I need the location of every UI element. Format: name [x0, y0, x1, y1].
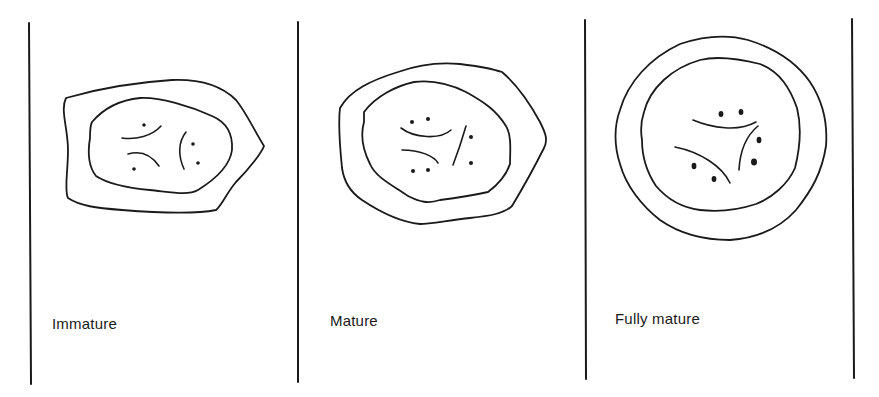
- outer-wall-outline: [616, 37, 827, 240]
- divider-line-3: [585, 20, 586, 379]
- dot: [751, 159, 757, 166]
- strand-1: [401, 128, 451, 137]
- panel-immature-drawing: [64, 80, 264, 213]
- strand-2: [675, 147, 730, 183]
- dot: [132, 167, 136, 171]
- strand-3: [453, 126, 466, 165]
- stage-label-fully-mature: Fully mature: [615, 310, 700, 327]
- dot: [411, 169, 415, 173]
- panel-fully-mature-drawing: [616, 37, 827, 240]
- dot: [739, 109, 744, 115]
- strand-1: [693, 120, 756, 128]
- dot: [191, 142, 195, 146]
- dot: [712, 176, 717, 182]
- diagram-canvas: [0, 0, 879, 397]
- divider-line-1: [29, 23, 31, 384]
- strand-2: [128, 153, 159, 166]
- dot: [692, 163, 697, 169]
- inner-cavity-outline: [362, 81, 510, 202]
- strand-3: [180, 132, 186, 169]
- dot: [410, 120, 414, 124]
- inner-cavity-outline: [641, 58, 800, 211]
- strand-2: [402, 150, 438, 163]
- inner-cavity-outline: [89, 98, 232, 193]
- stage-label-immature: Immature: [52, 315, 117, 332]
- dot: [469, 135, 473, 139]
- stage-label-mature: Mature: [330, 312, 378, 329]
- dot: [426, 168, 430, 172]
- dot: [196, 161, 200, 165]
- divider-line-4: [852, 19, 854, 378]
- dot: [142, 123, 146, 127]
- dot: [469, 161, 473, 165]
- dot: [719, 111, 724, 117]
- dot: [757, 137, 762, 143]
- strand-1: [122, 126, 161, 139]
- panel-mature-drawing: [339, 63, 546, 224]
- dot: [426, 117, 430, 121]
- maturity-stages-diagram: Immature Mature Fully mature: [0, 0, 879, 397]
